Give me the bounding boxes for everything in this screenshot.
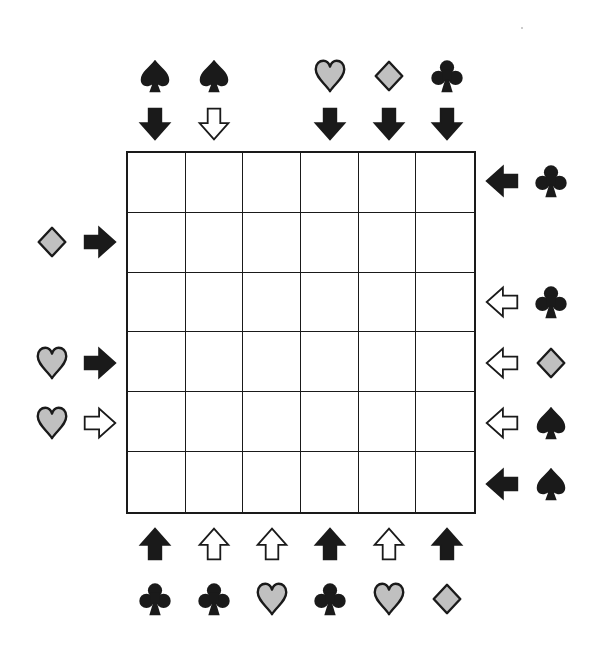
top-clue-5-arrow-down-filled-icon <box>371 106 407 142</box>
grid-cell-r2-c1[interactable] <box>128 213 186 273</box>
grid-cell-r3-c2[interactable] <box>186 273 244 333</box>
bottom-clue-4-club-icon <box>311 580 349 618</box>
grid-cell-r1-c4[interactable] <box>301 153 359 213</box>
left-clue-2-diamond-icon <box>33 223 71 261</box>
grid-cell-r4-c4[interactable] <box>301 332 359 392</box>
bottom-clue-3-arrow-up-outline-icon <box>254 526 290 562</box>
top-clue-6-arrow-down-filled-icon <box>429 106 465 142</box>
grid-cell-r4-c2[interactable] <box>186 332 244 392</box>
grid-cell-r2-c3[interactable] <box>243 213 301 273</box>
grid-cell-r4-c6[interactable] <box>416 332 474 392</box>
puzzle-grid <box>126 151 476 514</box>
bottom-clue-2-arrow-up-outline-icon <box>196 526 232 562</box>
grid-cell-r2-c6[interactable] <box>416 213 474 273</box>
right-clue-6-arrow-left-filled-icon <box>484 466 520 502</box>
top-clue-4-heart-icon <box>311 57 349 95</box>
left-clue-5-arrow-right-outline-icon <box>82 405 118 441</box>
grid-cell-r1-c3[interactable] <box>243 153 301 213</box>
grid-cell-r3-c4[interactable] <box>301 273 359 333</box>
top-clue-1-spade-icon <box>136 57 174 95</box>
bottom-clue-6-arrow-up-filled-icon <box>429 526 465 562</box>
grid-cell-r3-c6[interactable] <box>416 273 474 333</box>
top-clue-5-diamond-icon <box>370 57 408 95</box>
bottom-clue-5-arrow-up-outline-icon <box>371 526 407 562</box>
bottom-clue-5-heart-icon <box>370 580 408 618</box>
grid-cell-r5-c4[interactable] <box>301 392 359 452</box>
top-clue-1-arrow-down-filled-icon <box>137 106 173 142</box>
grid-cell-r4-c5[interactable] <box>359 332 417 392</box>
grid-cell-r6-c3[interactable] <box>243 452 301 512</box>
grid-cell-r3-c3[interactable] <box>243 273 301 333</box>
right-clue-5-arrow-left-outline-icon <box>484 405 520 441</box>
top-clue-2-arrow-down-outline-icon <box>196 106 232 142</box>
grid-cell-r2-c4[interactable] <box>301 213 359 273</box>
grid-cell-r6-c4[interactable] <box>301 452 359 512</box>
right-clue-4-arrow-left-outline-icon <box>484 345 520 381</box>
right-clue-6-spade-icon <box>532 465 570 503</box>
grid-cell-r3-c1[interactable] <box>128 273 186 333</box>
bottom-clue-1-arrow-up-filled-icon <box>137 526 173 562</box>
right-clue-1-club-icon <box>532 162 570 200</box>
right-clue-3-arrow-left-outline-icon <box>484 284 520 320</box>
grid-cell-r6-c1[interactable] <box>128 452 186 512</box>
right-clue-5-spade-icon <box>532 404 570 442</box>
grid-cell-r4-c3[interactable] <box>243 332 301 392</box>
bottom-clue-4-arrow-up-filled-icon <box>312 526 348 562</box>
grid-cell-r1-c2[interactable] <box>186 153 244 213</box>
right-clue-4-diamond-icon <box>532 344 570 382</box>
left-clue-5-heart-icon <box>33 404 71 442</box>
grid-cell-r6-c2[interactable] <box>186 452 244 512</box>
top-clue-6-club-icon <box>428 57 466 95</box>
grid-cell-r2-c5[interactable] <box>359 213 417 273</box>
bottom-clue-6-diamond-icon <box>428 580 466 618</box>
grid-cell-r5-c5[interactable] <box>359 392 417 452</box>
top-clue-4-arrow-down-filled-icon <box>312 106 348 142</box>
grid-cell-r3-c5[interactable] <box>359 273 417 333</box>
left-clue-4-arrow-right-filled-icon <box>82 345 118 381</box>
grid-cell-r2-c2[interactable] <box>186 213 244 273</box>
grid-cell-r4-c1[interactable] <box>128 332 186 392</box>
grid-cell-r1-c1[interactable] <box>128 153 186 213</box>
left-clue-2-arrow-right-filled-icon <box>82 224 118 260</box>
grid-cell-r6-c6[interactable] <box>416 452 474 512</box>
speck-mark <box>521 27 523 29</box>
grid-cell-r6-c5[interactable] <box>359 452 417 512</box>
grid-cell-r5-c3[interactable] <box>243 392 301 452</box>
right-clue-3-club-icon <box>532 283 570 321</box>
grid-cell-r5-c1[interactable] <box>128 392 186 452</box>
grid-cell-r1-c6[interactable] <box>416 153 474 213</box>
top-clue-2-spade-icon <box>195 57 233 95</box>
left-clue-4-heart-icon <box>33 344 71 382</box>
grid-cell-r5-c2[interactable] <box>186 392 244 452</box>
bottom-clue-3-heart-icon <box>253 580 291 618</box>
bottom-clue-2-club-icon <box>195 580 233 618</box>
grid-cell-r1-c5[interactable] <box>359 153 417 213</box>
bottom-clue-1-club-icon <box>136 580 174 618</box>
right-clue-1-arrow-left-filled-icon <box>484 163 520 199</box>
grid-cell-r5-c6[interactable] <box>416 392 474 452</box>
